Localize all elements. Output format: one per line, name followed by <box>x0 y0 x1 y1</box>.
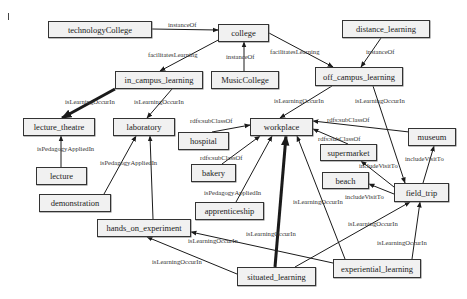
node-workplace: workplace <box>250 118 313 136</box>
edge-label: isPedagogyAppliedIn <box>37 146 94 153</box>
edge-label: rdfs:subClassOf <box>190 118 233 125</box>
edge-label: isPedagogyAppliedIn <box>100 160 157 167</box>
node-hands-on-experiment: hands_on_experiment <box>97 219 191 237</box>
node-demonstration: demonstration <box>39 194 111 212</box>
edge-islearningoccurin <box>295 202 410 267</box>
edge-label: isLearningOccurIn <box>246 231 296 238</box>
node-off-campus-learning: off_campus_learning <box>315 67 403 86</box>
edge-label: isLearningOccurIn <box>355 98 405 105</box>
edge-islearningoccurin <box>150 136 153 219</box>
node-college: college <box>218 24 269 42</box>
edge-label: isLearningOccurIn <box>274 98 324 105</box>
edge-label: isLearningOccurIn <box>293 199 343 206</box>
edge-label: instanceOf <box>168 22 197 29</box>
edge-label: includeVisitTo <box>359 163 398 170</box>
edge-label: isLearningOccurIn <box>152 259 202 266</box>
edge-label: instanceOf <box>366 49 395 56</box>
node-in-campus-learning: in_campus_learning <box>115 71 203 89</box>
edge-label: isLearningOccurIn <box>134 99 184 106</box>
edge-label: facilitatesLearning <box>148 52 197 59</box>
node-museum: museum <box>408 128 456 146</box>
node-beach: beach <box>322 172 369 189</box>
node-musiccollege: MusicCollege <box>211 71 279 89</box>
edge-label: isLearningOccurIn <box>348 221 398 228</box>
edge-label: includeVisitTo <box>345 194 384 201</box>
node-apprenticeship: apprenticeship <box>195 202 264 220</box>
node-experiential-learning: experiential_learning <box>333 259 421 278</box>
node-technologycollege: technologyCollege <box>48 21 152 38</box>
edge-islearningoccurin <box>275 136 286 267</box>
edge-includevisitto <box>423 146 434 183</box>
edge-label: rdfs:subClassOf <box>318 136 361 143</box>
node-distance-learning: distance_learning <box>342 20 430 38</box>
node-supermarket: supermarket <box>320 144 377 161</box>
edge-label: rdfs:subClassOf <box>200 155 243 162</box>
edge-label: instanceOf <box>226 54 255 61</box>
edge-label: isLearningOccurIn <box>65 99 115 106</box>
node-situated-learning: situated_learning <box>237 267 316 286</box>
edge-islearningoccurin <box>412 202 420 259</box>
edge-label: isPedagogyAppliedIn <box>204 190 261 197</box>
node-lecture-theatre: lecture_theatre <box>23 118 95 136</box>
node-laboratory: laboratory <box>113 118 175 136</box>
edge-label: includeVisitTo <box>405 156 444 163</box>
edge-rdfs-subclassof <box>212 125 250 132</box>
ontology-diagram: instanceOffacilitatesLearninginstanceOff… <box>0 0 467 299</box>
node-lecture: lecture <box>36 167 87 185</box>
edge-instanceof <box>152 29 218 30</box>
edge-label: isLearningOccurIn <box>188 238 238 245</box>
edge-label: rdfs:subClassOf <box>327 117 370 124</box>
node-bakery: bakery <box>191 164 236 182</box>
node-field-trip: field_trip <box>394 183 449 202</box>
edge-label: isLearningOccurIn <box>377 240 427 247</box>
node-hospital: hospital <box>178 132 229 150</box>
edge-label: facilitatesLearning <box>270 49 319 56</box>
